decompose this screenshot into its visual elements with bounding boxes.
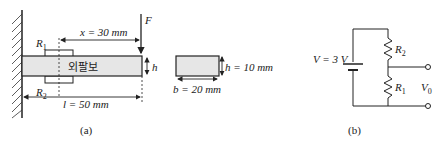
figure-b [343,29,431,109]
resistor-r2 [384,36,392,60]
voltage-label: V = 3 V [313,53,349,65]
caption-b: (b) [348,124,361,137]
r2-label-b: R2 [394,43,406,58]
cs-h-label: h = 10 mm [225,61,273,73]
terminal-top [426,65,431,70]
vo-label: V0 [421,81,432,96]
r2-label-a: R2 [35,86,47,101]
cross-section-rect [176,56,219,76]
r1-label-a: R1 [35,37,47,52]
cross-section: h = 10 mm b = 20 mm [173,56,273,95]
beam-label: 외팔보 [68,61,98,74]
x-dimension-label: x = 30 mm [79,26,127,38]
h-label: h [152,61,158,73]
figure-b-labels: V = 3 V R2 R1 V0 (b) [313,43,432,137]
caption-a: (a) [80,124,93,137]
terminal-bottom [426,104,431,109]
cs-b-label: b = 20 mm [173,83,221,95]
r1-label-b: R1 [394,81,406,96]
figure-a: 외팔보 R1 R2 x = 30 mm F h l = 50 mm (a) h … [12,10,273,137]
wire-top [353,29,388,62]
figure-canvas: 외팔보 R1 R2 x = 30 mm F h l = 50 mm (a) h … [0,0,442,150]
l-dimension-label: l = 50 mm [63,98,109,110]
force-label: F [144,14,152,26]
resistor-r1 [384,74,392,98]
fixed-wall [12,10,22,118]
